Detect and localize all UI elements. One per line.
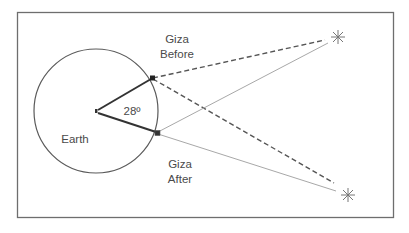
giza-after-point xyxy=(155,131,160,136)
angle-label: 28º xyxy=(124,105,142,117)
giza-after-label-line2: After xyxy=(168,173,192,185)
diagram-frame xyxy=(18,13,394,218)
giza-precession-diagram: Giza Before Giza After 28º Earth xyxy=(0,0,409,233)
earth-label: Earth xyxy=(61,133,89,145)
giza-before-label-line1: Giza xyxy=(165,33,189,45)
giza-before-point xyxy=(150,76,155,81)
star-top-icon xyxy=(331,30,345,44)
star-bottom-icon xyxy=(341,188,355,202)
giza-before-label-line2: Before xyxy=(160,48,194,60)
earth-center-dot xyxy=(95,109,98,113)
giza-after-label-line1: Giza xyxy=(168,158,192,170)
